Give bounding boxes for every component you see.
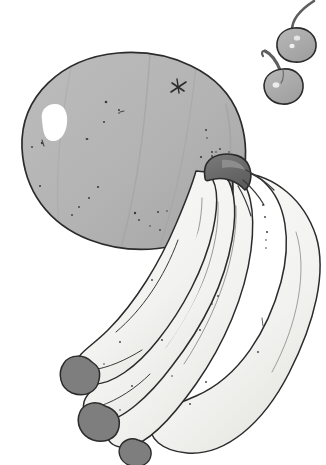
- cherry-upper-body: [277, 28, 316, 62]
- fruit-illustration-svg: [0, 0, 326, 465]
- cherry-upper-highlight-2: [289, 44, 294, 48]
- cherry-upper-highlight: [294, 35, 300, 40]
- fruit-illustration-canvas: Hand-drawn fruit illustration Pen-and-in…: [0, 0, 326, 465]
- cherry-lower-highlight: [273, 82, 280, 88]
